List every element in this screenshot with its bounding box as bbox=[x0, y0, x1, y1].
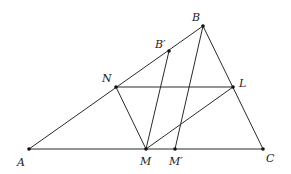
label-C: C bbox=[266, 152, 275, 165]
point-M-prime bbox=[173, 147, 177, 151]
label-N: N bbox=[101, 72, 112, 85]
geometry-diagram: A B C N L M M′ B′ bbox=[0, 0, 291, 174]
point-C bbox=[261, 147, 265, 151]
point-L bbox=[231, 85, 235, 89]
point-A bbox=[27, 147, 31, 151]
point-M bbox=[144, 147, 148, 151]
segment-N-M bbox=[116, 87, 146, 149]
segment-M-B-prime bbox=[146, 51, 169, 149]
point-N bbox=[114, 85, 118, 89]
segment-M-L bbox=[146, 87, 233, 149]
segments-group bbox=[29, 26, 263, 149]
point-B-prime bbox=[167, 49, 171, 53]
label-B: B bbox=[191, 11, 200, 24]
labels-group: A B C N L M M′ B′ bbox=[16, 11, 275, 169]
label-B-prime: B′ bbox=[154, 38, 166, 51]
label-A: A bbox=[16, 156, 25, 169]
point-B bbox=[201, 24, 205, 28]
label-M: M bbox=[139, 155, 152, 168]
label-M-prime: M′ bbox=[168, 155, 183, 168]
label-L: L bbox=[238, 77, 246, 90]
